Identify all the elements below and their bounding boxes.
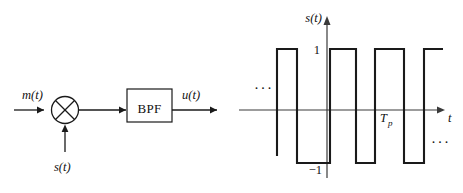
input-wire-m	[14, 107, 44, 114]
waveform-plot-group: 1 −1 s(t) t T p ··· ···	[239, 11, 452, 178]
output-arrowhead-icon	[210, 107, 217, 114]
bpf-block[interactable]: BPF	[127, 89, 172, 122]
output-wire-u	[172, 107, 217, 114]
period-label: T p	[380, 111, 393, 128]
level-high-label: 1	[314, 43, 320, 57]
period-label-subscript-p: p	[387, 118, 393, 128]
t-axis	[239, 107, 445, 114]
s-axis-arrowhead-icon	[324, 16, 331, 25]
ellipsis-right: ···	[431, 134, 451, 150]
mixer-to-bpf-wire	[79, 107, 126, 114]
bpf-input-arrowhead-icon	[119, 107, 126, 114]
input-label-m: m(t)	[22, 88, 43, 102]
y-axis-label: s(t)	[305, 11, 322, 25]
x-axis-label: t	[448, 111, 452, 125]
square-wave-trace	[277, 49, 443, 163]
output-label-u: u(t)	[182, 88, 200, 102]
mixer-multiplier[interactable]	[52, 97, 79, 124]
bpf-label: BPF	[137, 101, 161, 116]
carrier-arrowhead-icon	[62, 125, 69, 133]
input-arrowhead-icon	[37, 107, 44, 114]
carrier-wire-s	[62, 125, 69, 153]
carrier-label-s: s(t)	[54, 160, 71, 174]
signal-modulator-figure: BPF m(t) s(t) u(t)	[0, 0, 463, 193]
level-low-label: −1	[309, 163, 322, 177]
t-axis-arrowhead-icon	[437, 107, 445, 114]
figure-canvas: BPF m(t) s(t) u(t)	[0, 0, 463, 193]
block-diagram-group: BPF m(t) s(t) u(t)	[14, 88, 217, 174]
period-label-T: T	[380, 111, 388, 125]
ellipsis-left: ···	[254, 80, 274, 96]
